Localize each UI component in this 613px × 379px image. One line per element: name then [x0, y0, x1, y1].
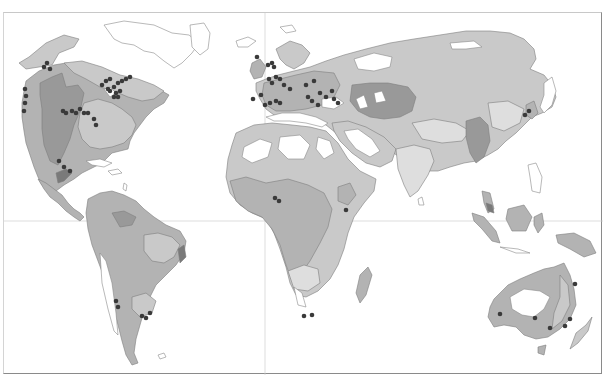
- site-marker: [318, 91, 323, 96]
- site-marker: [278, 101, 283, 106]
- site-marker: [273, 196, 278, 201]
- site-marker: [104, 79, 109, 84]
- site-marker: [527, 109, 532, 114]
- site-marker: [124, 77, 129, 82]
- site-marker: [128, 75, 133, 80]
- site-marker: [263, 103, 268, 108]
- iceland: [236, 37, 256, 47]
- site-marker: [267, 77, 272, 82]
- site-marker: [74, 111, 79, 116]
- lesser-antilles: [123, 183, 127, 191]
- site-marker: [94, 123, 99, 128]
- site-marker: [255, 55, 260, 60]
- site-marker: [24, 94, 29, 99]
- new-zealand: [570, 317, 592, 349]
- sri-lanka: [418, 197, 424, 205]
- sumatra: [472, 213, 500, 243]
- site-marker: [116, 95, 121, 100]
- site-marker: [64, 111, 69, 116]
- site-marker: [332, 97, 337, 102]
- site-marker: [304, 83, 309, 88]
- site-marker: [259, 93, 264, 98]
- sulawesi: [534, 213, 544, 233]
- site-marker: [23, 87, 28, 92]
- site-marker: [148, 311, 153, 316]
- site-marker: [114, 299, 119, 304]
- india: [396, 145, 434, 197]
- site-marker: [310, 99, 315, 104]
- site-marker: [270, 81, 275, 86]
- site-marker: [274, 75, 279, 80]
- scandinavia: [276, 41, 310, 69]
- site-marker: [22, 109, 27, 114]
- site-marker: [62, 165, 67, 170]
- site-marker: [278, 77, 283, 82]
- site-marker: [86, 111, 91, 116]
- site-marker: [277, 199, 282, 204]
- site-marker: [45, 61, 50, 66]
- site-marker: [306, 95, 311, 100]
- site-marker: [274, 99, 279, 104]
- british-isles: [250, 59, 266, 79]
- site-marker: [268, 101, 273, 106]
- site-marker: [266, 63, 271, 68]
- site-marker: [112, 95, 117, 100]
- site-marker: [118, 89, 123, 94]
- site-marker: [523, 113, 528, 118]
- site-marker: [48, 67, 53, 72]
- site-marker: [344, 208, 349, 213]
- north-america: [19, 21, 210, 221]
- world-map: [3, 12, 602, 374]
- java: [500, 247, 530, 253]
- site-marker: [68, 169, 73, 174]
- hispaniola: [108, 169, 122, 175]
- site-marker: [498, 312, 503, 317]
- site-marker: [272, 65, 277, 70]
- site-marker: [57, 159, 62, 164]
- site-marker: [282, 83, 287, 88]
- site-marker: [324, 95, 329, 100]
- site-marker: [140, 314, 145, 319]
- site-marker: [573, 282, 578, 287]
- site-marker: [23, 101, 28, 106]
- site-marker: [112, 85, 117, 90]
- site-marker: [312, 79, 317, 84]
- site-marker: [120, 79, 125, 84]
- site-marker: [302, 314, 307, 319]
- site-marker: [310, 313, 315, 318]
- svalbard: [280, 25, 296, 33]
- south-america: [86, 191, 186, 365]
- site-marker: [548, 326, 553, 331]
- site-marker: [116, 81, 121, 86]
- site-marker: [78, 107, 83, 112]
- site-marker: [251, 97, 256, 102]
- site-marker: [114, 91, 119, 96]
- site-marker: [568, 317, 573, 322]
- borneo: [506, 205, 532, 231]
- site-marker: [82, 111, 87, 116]
- falkland-islands: [158, 353, 166, 359]
- site-marker: [288, 87, 293, 92]
- site-marker: [533, 316, 538, 321]
- site-marker: [100, 83, 105, 88]
- site-marker: [316, 103, 321, 108]
- site-marker: [330, 89, 335, 94]
- tasmania: [538, 345, 546, 355]
- site-marker: [70, 109, 75, 114]
- southeast-asia-oceania: [472, 163, 596, 355]
- site-marker: [563, 324, 568, 329]
- site-marker: [144, 316, 149, 321]
- site-marker: [270, 61, 275, 66]
- site-marker: [108, 77, 113, 82]
- arctic-islands: [104, 21, 199, 68]
- madagascar: [356, 267, 372, 303]
- site-marker: [116, 305, 121, 310]
- new-guinea: [556, 233, 596, 257]
- site-marker: [92, 117, 97, 122]
- philippines: [528, 163, 542, 193]
- site-marker: [42, 65, 47, 70]
- site-marker: [106, 87, 111, 92]
- map-canvas: [4, 13, 603, 375]
- site-marker: [336, 101, 341, 106]
